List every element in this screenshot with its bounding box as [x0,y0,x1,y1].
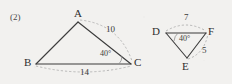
dashed-arc-df [166,25,206,31]
vertex-label-b: B [24,57,31,68]
vertex-label-d: D [152,26,160,37]
figure-canvas [0,0,232,84]
vertex-label-c: C [134,57,141,68]
segment-ab [36,22,78,64]
vertex-label-f: F [208,26,214,37]
vertex-label-e: E [182,61,189,72]
measure-label-side-df: 7 [184,13,189,22]
triangle-abc-group [36,20,132,72]
measure-label-side-ac: 10 [106,25,115,34]
geometry-figure-panel: (2) A B C 10 14 40° D F E 7 5 40° [0,0,232,84]
measure-label-angle-d: 40° [179,35,190,43]
angle-arc-c [119,56,122,64]
measure-label-angle-c: 40° [100,50,111,58]
measure-label-side-bc: 14 [80,68,89,77]
measure-label-side-ef: 5 [202,46,207,55]
angle-arc-d [174,33,178,41]
problem-number: (2) [10,13,21,22]
vertex-label-a: A [74,8,82,19]
